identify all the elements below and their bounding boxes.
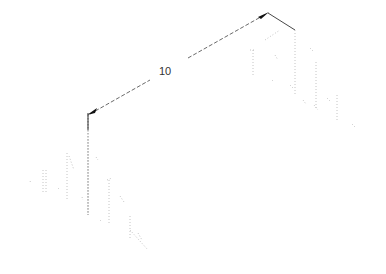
extension-lines [88,13,295,215]
left-wireframe-structure [30,140,148,250]
isometric-drawing [0,0,386,274]
arrowhead-right-icon [258,12,269,19]
drawing-canvas: 10 [0,0,386,274]
dimension-label: 10 [158,66,172,77]
dimension-line [87,12,269,115]
right-wireframe-structure [250,30,356,128]
